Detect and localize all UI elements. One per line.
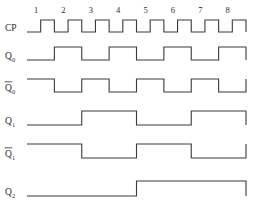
signal-label-text-Q1bar: Q1 xyxy=(5,149,15,161)
signal-label-column: CPQ0Q0Q1Q1Q2 xyxy=(5,23,17,199)
waveform-Q0 xyxy=(27,47,246,60)
signal-label-Q2: Q2 xyxy=(5,187,15,199)
cycle-number-3: 3 xyxy=(89,5,93,15)
cycle-number-1: 1 xyxy=(34,5,38,15)
signal-label-Q1bar: Q1 xyxy=(5,148,15,161)
waveform-Q2 xyxy=(27,181,246,196)
waveform-canvas: 12345678 CPQ0Q0Q1Q1Q2 xyxy=(0,0,254,204)
cycle-number-7: 7 xyxy=(198,5,202,15)
waveform-traces xyxy=(27,20,246,196)
signal-label-Q1: Q1 xyxy=(5,116,15,128)
cycle-number-2: 2 xyxy=(61,5,65,15)
signal-label-text-CP: CP xyxy=(5,23,17,33)
signal-label-CP: CP xyxy=(5,23,17,33)
waveform-Q0bar xyxy=(27,79,246,92)
cycle-number-row: 12345678 xyxy=(34,5,230,15)
waveform-Q1 xyxy=(27,111,246,125)
cycle-number-4: 4 xyxy=(116,5,121,15)
signal-label-text-Q2: Q2 xyxy=(5,187,15,199)
signal-label-Q0bar: Q0 xyxy=(5,82,15,95)
signal-label-Q0: Q0 xyxy=(5,51,15,63)
cycle-number-8: 8 xyxy=(226,5,230,15)
cycle-number-6: 6 xyxy=(171,5,175,15)
timing-diagram-figure: 12345678 CPQ0Q0Q1Q1Q2 xyxy=(0,0,254,204)
signal-label-text-Q1: Q1 xyxy=(5,116,15,128)
cycle-number-5: 5 xyxy=(143,5,147,15)
waveform-Q1bar xyxy=(27,144,246,158)
signal-label-text-Q0: Q0 xyxy=(5,51,15,63)
signal-label-text-Q0bar: Q0 xyxy=(5,83,15,95)
waveform-CP xyxy=(27,20,246,32)
